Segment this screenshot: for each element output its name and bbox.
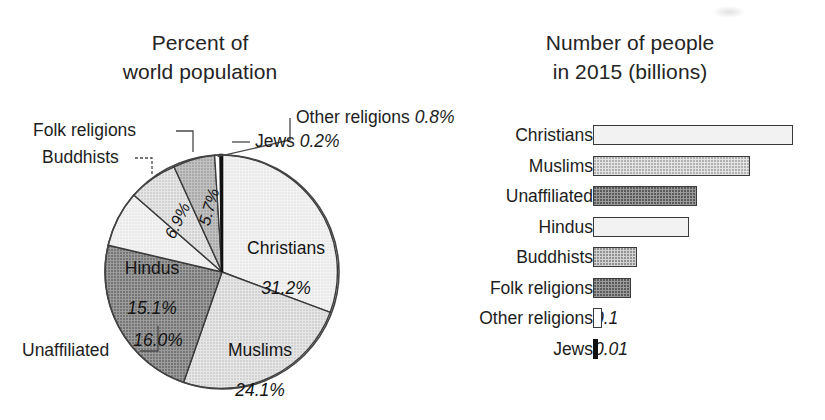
pie-callout-jews: Jews 0.2% <box>255 131 340 152</box>
pie-label-hindus-name: Hindus <box>125 258 179 278</box>
bar-label: Jews <box>553 336 593 362</box>
bar-label: Other religions <box>479 305 593 331</box>
bar-row: Folk religions0.4 <box>410 275 825 301</box>
two-panel-religion-figure: Percent of world population <box>0 0 825 420</box>
pie-label-christians-pct: 31.2% <box>261 278 311 298</box>
bar-row: Buddhists0.5 <box>410 244 825 270</box>
leader-line-buddhists <box>135 158 152 174</box>
bar-rect <box>593 247 637 267</box>
pie-label-hindus: Hindus 15.1% <box>105 238 199 318</box>
bar-label: Folk religions <box>490 275 593 301</box>
bar-row: Unaffiliated1.2 <box>410 183 825 209</box>
bar-label: Unaffiliated <box>506 183 593 209</box>
scan-artifact <box>712 6 746 18</box>
bar-row: Jews0.01 <box>410 336 825 362</box>
pie-callout-other-religions-name: Other religions <box>296 107 410 127</box>
pie-label-unaffiliated-pct: 16.0% <box>117 310 199 350</box>
bar-chart-panel: Number of people in 2015 (billions) Chri… <box>410 0 825 420</box>
bar-label: Christians <box>515 122 593 148</box>
bar-rect <box>593 308 602 328</box>
bar-value: 0.01 <box>594 336 638 362</box>
pie-slice-jews <box>221 155 222 272</box>
pie-label-christians-name: Christians <box>247 238 325 258</box>
pie-callout-jews-value: 0.2% <box>300 131 340 151</box>
bar-rect <box>593 278 631 298</box>
pie-label-unaffiliated-pct-value: 16.0% <box>133 330 183 350</box>
bar-rect <box>593 156 750 176</box>
pie-chart-panel: Percent of world population <box>0 0 410 420</box>
bar-rect <box>593 217 689 237</box>
bar-label: Muslims <box>529 153 593 179</box>
bar-rect <box>593 125 793 145</box>
pie-callout-jews-name: Jews <box>255 131 295 151</box>
bar-rect <box>593 339 598 359</box>
bar-rect <box>593 186 697 206</box>
pie-callout-buddhists: Buddhists <box>42 147 119 168</box>
bar-row: Muslims1.8 <box>410 153 825 179</box>
leader-line-folk-religions <box>176 131 193 152</box>
pie-callout-unaffiliated: Unaffiliated <box>22 340 109 361</box>
pie-callout-folk-religions: Folk religions <box>33 120 136 141</box>
pie-callout-folk-religions-name: Folk religions <box>33 120 136 140</box>
bar-row: Other religions0.1 <box>410 305 825 331</box>
pie-label-muslims-pct: 24.1% <box>235 380 285 400</box>
pie-label-muslims: Muslims 24.1% <box>208 320 312 400</box>
bar-label: Buddhists <box>516 244 593 270</box>
pie-label-muslims-name: Muslims <box>228 340 292 360</box>
bar-row: Hindus1.1 <box>410 214 825 240</box>
bar-chart-title: Number of people in 2015 (billions) <box>490 28 770 86</box>
pie-callout-buddhists-name: Buddhists <box>42 147 119 167</box>
bar-label: Hindus <box>539 214 593 240</box>
pie-label-christians: Christians 31.2% <box>228 218 344 298</box>
pie-callout-unaffiliated-name: Unaffiliated <box>22 340 109 360</box>
bar-row: Christians2.3 <box>410 122 825 148</box>
